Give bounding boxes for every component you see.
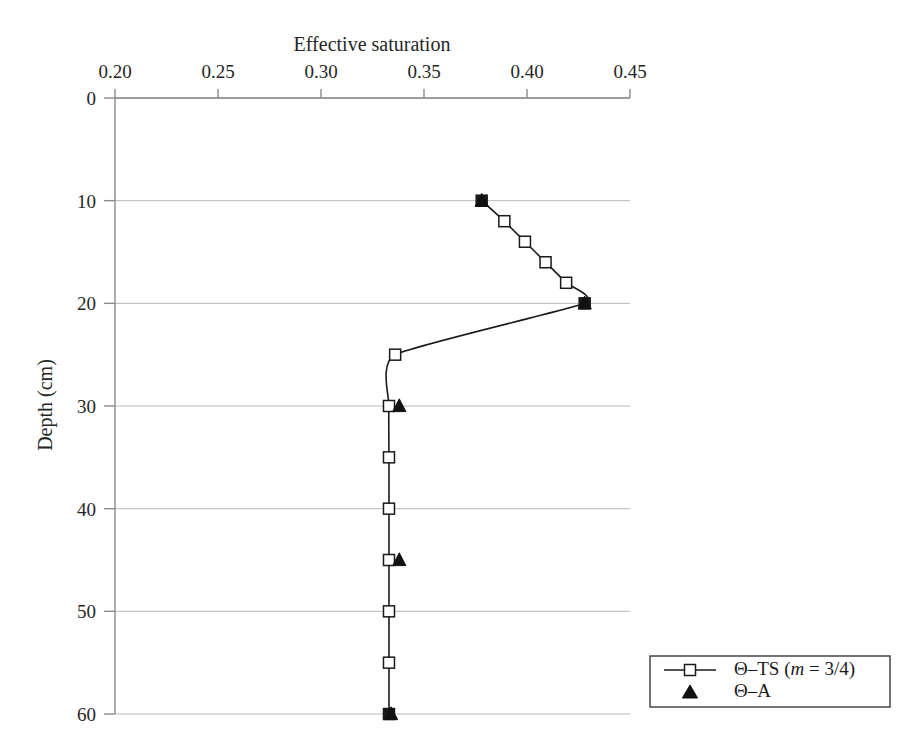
data-point-square xyxy=(390,349,401,360)
figure-background xyxy=(0,0,898,753)
data-point-square xyxy=(383,555,394,566)
chart-figure: Effective saturation Depth (cm) 0.200.25… xyxy=(0,0,898,753)
y-tick-label: 10 xyxy=(77,191,96,212)
legend-label-italic: m xyxy=(790,658,804,679)
legend-marker-square xyxy=(685,665,696,676)
legend-label-prefix: Θ–TS ( xyxy=(734,658,790,680)
x-tick-label: 0.20 xyxy=(98,61,131,82)
y-axis-title: Depth (cm) xyxy=(34,359,57,451)
x-tick-label: 0.45 xyxy=(613,61,646,82)
x-tick-label: 0.25 xyxy=(201,61,234,82)
x-tick-label: 0.35 xyxy=(407,61,440,82)
chart-legend: Θ–TS (m = 3/4)Θ–A xyxy=(650,656,890,707)
y-tick-label: 30 xyxy=(77,396,96,417)
legend-label-1: Θ–TS (m = 3/4) xyxy=(734,658,855,680)
legend-label-prefix: Θ–A xyxy=(734,680,771,701)
y-tick-label: 50 xyxy=(77,601,96,622)
data-point-square xyxy=(383,503,394,514)
x-tick-label: 0.40 xyxy=(510,61,543,82)
y-tick-label: 20 xyxy=(77,293,96,314)
y-tick-label: 60 xyxy=(77,704,96,725)
x-axis-title: Effective saturation xyxy=(294,33,451,55)
legend-label-suffix: = 3/4) xyxy=(804,658,855,680)
x-tick-label: 0.30 xyxy=(304,61,337,82)
data-point-square xyxy=(561,277,572,288)
y-tick-label: 40 xyxy=(77,499,96,520)
data-point-square xyxy=(540,257,551,268)
data-point-square xyxy=(383,606,394,617)
data-point-square xyxy=(383,657,394,668)
data-point-square xyxy=(519,236,530,247)
data-point-square xyxy=(383,452,394,463)
legend-label-2: Θ–A xyxy=(734,680,771,701)
y-tick-label: 0 xyxy=(87,88,97,109)
data-point-square xyxy=(383,401,394,412)
data-point-square xyxy=(499,216,510,227)
